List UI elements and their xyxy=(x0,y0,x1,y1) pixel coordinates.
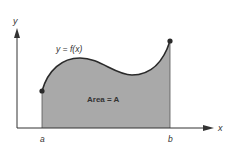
area-under-curve-diagram: y x y = f(x) Area = A a b xyxy=(0,0,238,162)
x-axis-arrow-icon xyxy=(203,125,214,131)
endpoint-b-dot xyxy=(167,38,172,43)
endpoint-a-dot xyxy=(39,88,44,93)
bound-label-a: a xyxy=(40,134,45,144)
area-label: Area = A xyxy=(87,95,120,104)
curve-label: y = f(x) xyxy=(55,44,82,54)
bound-label-b: b xyxy=(168,134,173,144)
y-axis-arrow-icon xyxy=(14,28,20,38)
shaded-area xyxy=(42,41,170,128)
y-axis-label: y xyxy=(12,16,18,26)
x-axis-label: x xyxy=(217,123,223,133)
